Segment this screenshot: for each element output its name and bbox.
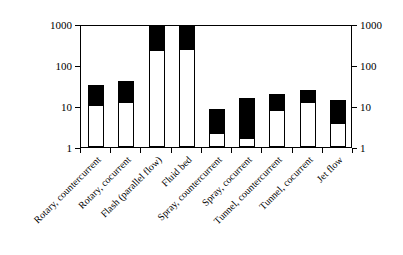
y-tick-right-10 bbox=[352, 107, 357, 108]
y-tick-label-right-100: 100 bbox=[360, 61, 377, 72]
y-tick-left-10 bbox=[75, 107, 80, 108]
x-tick-2 bbox=[140, 148, 141, 153]
heat-demand-chart-figure: Heat demand (kW/m3wet prod.) 10001000100… bbox=[0, 0, 403, 255]
y-tick-label-left-10: 10 bbox=[61, 102, 72, 113]
bar-4 bbox=[179, 25, 195, 147]
bar-8 bbox=[300, 90, 316, 147]
bar-2 bbox=[118, 81, 134, 147]
x-tick-7 bbox=[292, 148, 293, 153]
bar-9-upper-segment bbox=[330, 100, 346, 124]
y-tick-label-left-1: 1 bbox=[67, 143, 73, 154]
bar-7 bbox=[269, 94, 285, 147]
y-tick-label-left-1000: 1000 bbox=[50, 20, 72, 31]
bar-3-upper-segment bbox=[149, 25, 165, 51]
bar-5-upper-segment bbox=[209, 109, 225, 134]
x-tick-6 bbox=[261, 148, 262, 153]
bar-1-upper-segment bbox=[88, 85, 104, 106]
bar-6 bbox=[239, 98, 255, 147]
bar-2-upper-segment bbox=[118, 81, 134, 103]
x-tick-1 bbox=[110, 148, 111, 153]
x-tick-5 bbox=[231, 148, 232, 153]
x-tick-3 bbox=[171, 148, 172, 153]
y-tick-left-1000 bbox=[75, 25, 80, 26]
y-tick-right-100 bbox=[352, 66, 357, 67]
plot-area bbox=[80, 25, 352, 148]
bar-1 bbox=[88, 85, 104, 147]
bar-6-upper-segment bbox=[239, 98, 255, 139]
y-tick-label-left-100: 100 bbox=[56, 61, 73, 72]
x-tick-0 bbox=[80, 148, 81, 153]
y-tick-label-right-1000: 1000 bbox=[360, 20, 382, 31]
y-tick-label-right-1: 1 bbox=[360, 143, 366, 154]
y-tick-right-1000 bbox=[352, 25, 357, 26]
bar-7-upper-segment bbox=[269, 94, 285, 112]
bar-3 bbox=[149, 25, 165, 147]
x-tick-4 bbox=[201, 148, 202, 153]
bar-4-upper-segment bbox=[179, 25, 195, 50]
bar-5 bbox=[209, 109, 225, 147]
x-tick-8 bbox=[322, 148, 323, 153]
y-tick-label-right-10: 10 bbox=[360, 102, 371, 113]
x-tick-9 bbox=[352, 148, 353, 153]
bar-9 bbox=[330, 100, 346, 147]
y-tick-left-100 bbox=[75, 66, 80, 67]
bar-8-upper-segment bbox=[300, 90, 316, 102]
